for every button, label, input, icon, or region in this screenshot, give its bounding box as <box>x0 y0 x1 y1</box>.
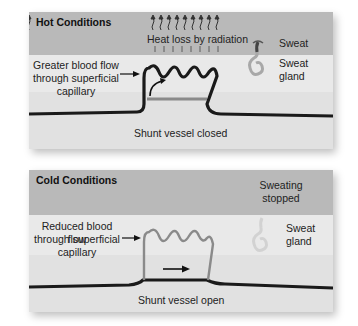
sweating-stopped-line1: Sweating <box>251 179 311 192</box>
shunt-vessel-label: Shunt vessel open <box>138 294 224 307</box>
capillary-label-line3: capillary <box>31 246 123 259</box>
shunt-vessel-label: Shunt vessel closed <box>134 127 227 140</box>
hot-conditions-panel: Hot Conditions <box>29 12 333 149</box>
heat-loss-label: Heat loss by radiation <box>147 33 248 46</box>
sweat-label: Sweat <box>279 37 308 50</box>
sweat-gland-icon <box>254 218 267 250</box>
sweat-gland-label: Sweat gland <box>286 222 333 248</box>
capillary-label-line2: through superficial <box>33 72 119 85</box>
capillary-label-line1: Greater blood flow <box>33 59 119 72</box>
sweat-gland-icon <box>250 41 264 74</box>
blood-vessel <box>29 280 333 288</box>
capillary-label-line3: capillary <box>33 85 119 98</box>
sweating-stopped-line2: stopped <box>251 192 311 205</box>
capillary-label-line2: through superficial <box>31 233 123 246</box>
sweat-gland-label: Sweat gland <box>279 57 333 83</box>
superficial-capillary <box>144 230 213 280</box>
cold-conditions-panel: Cold Conditions Sweating stopped Reduced… <box>29 170 333 312</box>
heat-arrows-icon <box>29 15 219 30</box>
